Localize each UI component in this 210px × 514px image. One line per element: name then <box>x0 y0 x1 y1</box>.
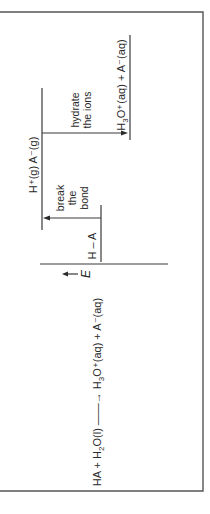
energy-arrow-icon <box>62 272 78 277</box>
break-step-label-2: the <box>66 191 78 206</box>
break-step-label-3: bond <box>78 186 90 210</box>
level-reactant-label: H – A <box>86 232 98 260</box>
hydrate-step-label-2: the ions <box>81 92 93 129</box>
overall-equation: HA + H2O(l)——→H3O⁺(aq) + A⁻(aq) <box>91 298 106 486</box>
energy-level-diagram: E H – A H⁺(g) A⁻(g) break the bond H3O⁺(… <box>0 0 210 514</box>
hydrate-step-label-1: hydrate <box>69 92 81 127</box>
level-product-label: H3O⁺(aq) + A⁻(aq) <box>115 39 130 130</box>
level-gas-ions-label: H⁺(g) A⁻(g) <box>27 137 39 194</box>
break-step-label-1: break <box>54 184 66 211</box>
break-bond-arrow <box>43 216 101 221</box>
energy-axis-label: E <box>79 269 93 278</box>
